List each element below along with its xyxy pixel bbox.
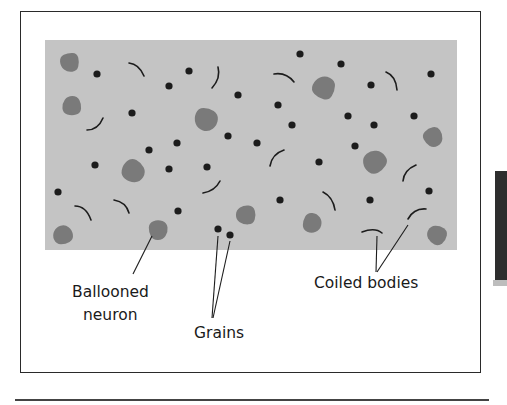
grain xyxy=(315,158,322,165)
grain xyxy=(165,165,172,172)
grain xyxy=(410,112,417,119)
grain xyxy=(288,121,295,128)
grain xyxy=(276,196,283,203)
label-ballooned-neuron-line2: neuron xyxy=(83,306,138,324)
grain xyxy=(253,139,260,146)
grain xyxy=(274,101,281,108)
grain xyxy=(185,67,192,74)
bottom-divider-rule xyxy=(15,399,489,401)
grain xyxy=(173,139,180,146)
label-coiled-bodies: Coiled bodies xyxy=(314,274,418,292)
grain xyxy=(214,225,221,232)
grain xyxy=(370,121,377,128)
grain xyxy=(226,231,233,238)
grain xyxy=(128,109,135,116)
grain xyxy=(165,82,172,89)
grain xyxy=(367,81,374,88)
grain xyxy=(145,146,152,153)
adjacent-page-edge xyxy=(495,171,507,283)
grain xyxy=(93,70,100,77)
label-ballooned-neuron-line1: Ballooned xyxy=(72,283,149,301)
grain xyxy=(427,70,434,77)
grain xyxy=(351,142,358,149)
grain xyxy=(344,112,351,119)
grain xyxy=(366,196,373,203)
grain xyxy=(224,132,231,139)
leader-line-grains-b xyxy=(213,241,230,318)
grain xyxy=(234,91,241,98)
grain xyxy=(54,188,61,195)
label-grains: Grains xyxy=(194,324,244,342)
pathology-diagram: Ballooned neuron Grains Coiled bodies xyxy=(0,0,507,405)
grain xyxy=(91,161,98,168)
adjacent-page-edge-foot xyxy=(493,280,507,286)
grain xyxy=(337,60,344,67)
grain xyxy=(425,187,432,194)
grain xyxy=(203,163,210,170)
grain xyxy=(296,50,303,57)
grain xyxy=(174,207,181,214)
